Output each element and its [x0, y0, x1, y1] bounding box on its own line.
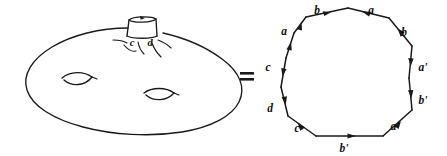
polygon-edge-label-a-top-right: a: [368, 4, 374, 16]
handle-label-d: d: [147, 37, 153, 48]
figure-svg: c d: [0, 0, 447, 156]
surface-hole-2-tick: [174, 93, 179, 95]
surface-hole-1-tick: [92, 77, 97, 79]
arrow-edge-4: [408, 58, 413, 67]
equals-sign: [240, 72, 254, 81]
polygon-edge-label-a-prime-right: a': [419, 61, 428, 73]
handle-label-c: c: [130, 37, 135, 48]
arrow-edge-12: [297, 23, 302, 31]
handle-stroke-middle: [138, 42, 144, 54]
arrow-edge-11: [286, 42, 291, 51]
polygon-edge-label-c-left: c: [265, 61, 270, 73]
polygon-drawing: b a b a' b' a' b' c d c a: [265, 4, 427, 154]
math-figure-canvas: c d: [0, 0, 447, 156]
polygon-edge-label-d-left-lower: d: [267, 102, 273, 114]
equals-bar-bottom: [240, 78, 254, 81]
surface-hole-2-lower: [146, 93, 174, 100]
polygon-edge-label-b-upper-right: b: [401, 26, 407, 38]
surface-hole-2-upper: [144, 89, 174, 94]
polygon-edge-label-a-prime-bottom-right: a': [391, 120, 400, 132]
polygon-edge-label-b-prime-lower-right: b': [419, 94, 428, 106]
handle-right-wall: [156, 19, 157, 36]
surface-hole-1-upper: [62, 73, 92, 78]
handle-stroke-left-tail: [113, 40, 127, 43]
handle-stroke-right-tail: [158, 40, 171, 48]
surface-drawing: c d: [26, 16, 242, 135]
polygon-edge-label-c-lower-left: c: [294, 122, 299, 134]
equals-bar-top: [240, 72, 254, 75]
polygon-edge-label-b-top-left: b: [314, 4, 320, 16]
polygon-edge-label-a-upper-left: a: [281, 25, 287, 37]
handle-stroke-d: [152, 43, 161, 57]
arrow-edge-7: [348, 134, 357, 139]
arrow-edge-10: [281, 68, 286, 77]
surface-hole-1-lower: [64, 77, 92, 85]
polygon-edge-label-b-prime-bottom: b': [340, 142, 349, 154]
